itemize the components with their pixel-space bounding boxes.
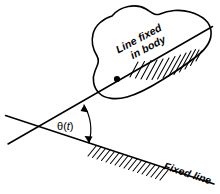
pivot-point-dot	[114, 76, 120, 82]
angle-arc-group	[81, 105, 93, 143]
body-line-label-group: Line fixed in body	[114, 21, 170, 66]
fixed-line-label: Fixed line	[162, 160, 213, 187]
fixed-line-hatching	[88, 146, 169, 181]
body-line-group	[8, 27, 213, 145]
angle-arrow-head-upper	[81, 105, 89, 113]
figure-canvas: Fixed line Line fixed	[0, 0, 220, 194]
angle-close-paren: )	[70, 120, 74, 132]
diagram-svg: Fixed line Line fixed	[0, 0, 220, 194]
body-line	[8, 27, 213, 145]
fixed-line-group: Fixed line	[6, 116, 215, 187]
angle-label: θ(t)	[57, 120, 74, 132]
